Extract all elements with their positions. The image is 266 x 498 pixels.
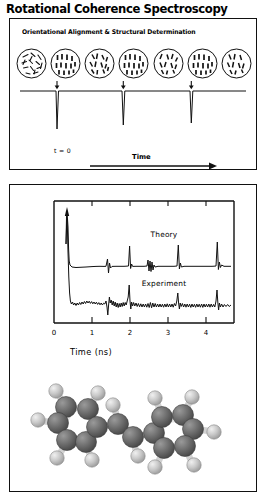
xtick-1: 1 [90,329,94,337]
alignment-circle-aligned-1 [50,48,81,79]
alignment-circle-partial-1 [84,48,115,79]
transient-plot: Theory Experiment 0 1 2 3 4 [46,197,242,345]
t-zero-label: t = 0 [54,147,71,154]
theory-label: Theory [150,230,178,239]
experiment-label: Experiment [142,279,187,288]
alignment-circle-row [16,43,252,83]
pump-probe-transient-trace [14,81,254,139]
xtick-4: 4 [204,329,209,337]
carbon-atom [48,397,204,459]
alignment-circle-aligned-3 [187,48,218,79]
page-title: Rotational Coherence Spectroscopy [6,1,228,16]
x-axis-label: Time (ns) [70,347,112,357]
alignment-circle-isotropic [16,48,47,79]
alignment-circle-partial-3 [221,48,252,79]
stilbene-molecule-model [20,367,248,485]
xtick-2: 2 [128,329,132,337]
panel-orientational-alignment: Orientational Alignment & Structural Det… [9,18,257,170]
alignment-circle-aligned-2 [118,48,149,79]
panel-subtitle: Orientational Alignment & Structural Det… [22,28,196,36]
panel-theory-experiment: Theory Experiment 0 1 2 3 4 Time (ns) [9,184,257,492]
theory-spike-arrow [65,207,69,216]
time-axis-label: Time [132,153,151,161]
theory-curve [66,211,231,273]
xtick-0: 0 [52,329,56,337]
alignment-circle-partial-2 [153,48,184,79]
time-arrow-icon [90,162,220,170]
rotational-coherence-figure: Rotational Coherence Spectroscopy Orient… [0,0,266,498]
xtick-3: 3 [166,329,170,337]
